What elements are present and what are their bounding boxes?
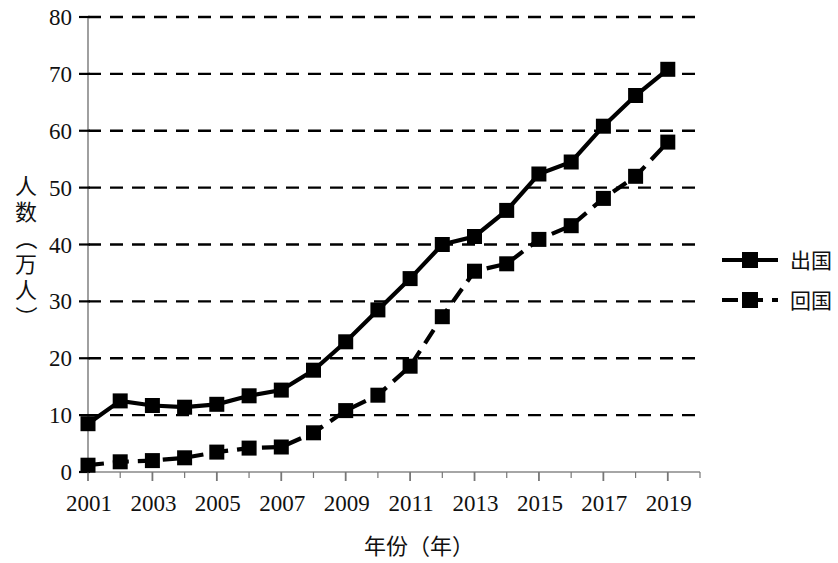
data-point-marker [274,383,289,398]
y-axis-tick-labels: 01020304050607080 [49,5,72,485]
data-point-marker [177,400,192,415]
y-tick-label: 10 [49,403,72,428]
line-chart: 01020304050607080 2001200320052007200920… [0,0,838,563]
y-axis-title-char: 人 [15,278,37,303]
data-point-marker [467,229,482,244]
legend-marker-swatch [742,292,758,308]
data-point-marker [499,256,514,271]
data-point-marker [209,445,224,460]
data-point-marker [435,309,450,324]
x-tick-label: 2005 [195,491,241,516]
data-point-marker [435,237,450,252]
y-tick-label: 70 [49,62,72,87]
data-point-marker [306,363,321,378]
legend-label: 回国 [790,289,832,313]
legend-label: 出国 [790,249,832,273]
data-point-marker [531,232,546,247]
data-point-marker [403,271,418,286]
data-point-marker [242,388,257,403]
data-point-marker [660,135,675,150]
data-point-marker [531,167,546,182]
legend-marker-swatch [742,252,758,268]
chart-background [0,0,838,563]
data-point-marker [242,441,257,456]
y-tick-label: 30 [49,289,72,314]
data-point-marker [274,440,289,455]
data-point-marker [306,425,321,440]
y-axis-title-char: （ [14,228,39,250]
data-point-marker [564,218,579,233]
data-point-marker [113,393,128,408]
data-point-marker [145,453,160,468]
y-axis-title-char: 人 [15,174,37,199]
data-point-marker [596,191,611,206]
x-tick-label: 2009 [324,491,370,516]
data-point-marker [338,334,353,349]
x-axis-title-text: 年份（年） [364,534,474,559]
x-tick-label: 2007 [259,491,305,516]
x-tick-label: 2003 [130,491,176,516]
data-point-marker [81,416,96,431]
data-point-marker [564,155,579,170]
x-tick-label: 2017 [581,491,627,516]
y-tick-label: 50 [49,176,72,201]
x-tick-label: 2015 [517,491,563,516]
x-tick-label: 2013 [453,491,499,516]
data-point-marker [628,169,643,184]
x-tick-label: 2019 [646,491,692,516]
y-tick-label: 80 [49,5,72,30]
y-axis-title-char: 万 [15,252,37,277]
chart-figure: 01020304050607080 2001200320052007200920… [0,0,838,563]
y-tick-label: 60 [49,119,72,144]
data-point-marker [499,203,514,218]
y-tick-label: 0 [61,460,73,485]
data-point-marker [145,398,160,413]
y-axis-title-char: 数 [15,200,37,225]
data-point-marker [660,62,675,77]
x-tick-label: 2011 [389,491,434,516]
data-point-marker [177,450,192,465]
y-axis-title-char: ） [14,306,39,328]
data-point-marker [467,264,482,279]
data-point-marker [338,403,353,418]
data-point-marker [596,119,611,134]
data-point-marker [209,397,224,412]
data-point-marker [113,454,128,469]
y-tick-label: 20 [49,346,72,371]
data-point-marker [370,302,385,317]
data-point-marker [370,388,385,403]
x-axis-title: 年份（年） [364,534,474,559]
data-point-marker [628,88,643,103]
y-tick-label: 40 [49,233,72,258]
x-tick-label: 2001 [66,491,112,516]
data-point-marker [403,359,418,374]
data-point-marker [81,458,96,473]
